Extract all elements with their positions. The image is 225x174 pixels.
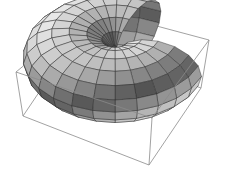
surface-plot [0, 0, 225, 174]
surface-face [94, 84, 115, 100]
surface-face [115, 84, 136, 100]
torus-surface-mesh [24, 0, 202, 123]
surface-face [96, 70, 115, 86]
surface-face [93, 99, 115, 113]
box-edge [23, 116, 149, 165]
box-edge [201, 40, 209, 88]
box-edge [149, 118, 152, 165]
box-edge [16, 72, 23, 116]
surface-face [115, 98, 137, 112]
